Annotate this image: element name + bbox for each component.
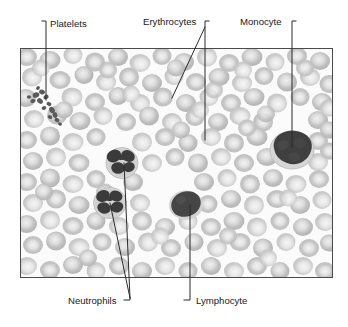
blood-smear-figure: Platelets Erythrocytes Monocyte Neutroph…	[0, 0, 348, 327]
label-monocyte: Monocyte	[240, 16, 282, 27]
label-neutrophils: Neutrophils	[68, 295, 117, 306]
neutrophils-leader-foot	[124, 298, 130, 300]
micrograph-frame	[16, 46, 339, 280]
label-platelets: Platelets	[50, 18, 87, 29]
label-erythrocytes: Erythrocytes	[143, 16, 197, 27]
label-lymphocyte: Lymphocyte	[196, 295, 247, 306]
